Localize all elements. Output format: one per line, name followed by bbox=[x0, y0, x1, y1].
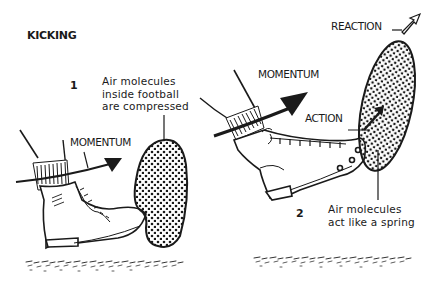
panel-1-note-line-1: Air molecules bbox=[102, 75, 189, 88]
panel-1-note-line-2: inside football bbox=[102, 88, 189, 101]
reaction-label: REACTION bbox=[331, 20, 382, 32]
panel-1-note-line-3: are compressed bbox=[102, 100, 189, 113]
boot-2 bbox=[234, 128, 365, 200]
panel-1-number: 1 bbox=[70, 80, 78, 93]
boot-1 bbox=[40, 182, 146, 248]
panel-2-number: 2 bbox=[296, 208, 304, 221]
panel-2-note-line-2: act like a spring bbox=[328, 216, 415, 229]
panel-1-note: Air molecules inside football are compre… bbox=[102, 75, 189, 113]
panel-2-illustration bbox=[200, 14, 425, 267]
diagram-title: KICKING bbox=[27, 30, 76, 43]
panel-2-note-line-1: Air molecules bbox=[328, 203, 415, 216]
kicking-illustration bbox=[0, 0, 442, 292]
panel-2-note: Air molecules act like a spring bbox=[328, 203, 415, 228]
action-label: ACTION bbox=[305, 112, 343, 124]
panel-2-momentum-label: MOMENTUM bbox=[258, 68, 319, 80]
ground-texture-1 bbox=[26, 261, 183, 271]
ground-texture-2 bbox=[254, 257, 411, 267]
reaction-arrow bbox=[392, 14, 420, 34]
panel-1-momentum-label: MOMENTUM bbox=[70, 136, 131, 148]
momentum-arrow-1 bbox=[16, 158, 122, 182]
football-1 bbox=[135, 140, 187, 247]
